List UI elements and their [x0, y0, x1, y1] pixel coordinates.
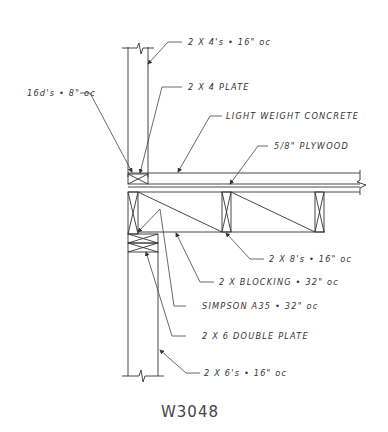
- wall-floor-section-detail: 2 X 4's • 16" oc 16d's • 8" oc 2 X 4 PLA…: [0, 0, 388, 432]
- floor-joists: [128, 192, 325, 234]
- label-nails: 16d's • 8" oc: [27, 88, 96, 98]
- label-upper-studs: 2 X 4's • 16" oc: [188, 37, 271, 47]
- lower-wall: [122, 234, 164, 382]
- label-plywood: 5/8" PLYWOOD: [274, 141, 349, 151]
- floor-deck: [128, 170, 366, 195]
- label-simpson: SIMPSON A35 • 32" oc: [202, 301, 318, 311]
- label-lower-studs: 2 X 6's • 16" oc: [204, 368, 287, 378]
- drawing-title: W3048: [161, 403, 219, 421]
- label-blocking: 2 X BLOCKING • 32" oc: [219, 277, 339, 287]
- label-2x4-plate: 2 X 4 PLATE: [188, 82, 250, 92]
- label-joists: 2 X 8's • 16" oc: [269, 254, 352, 264]
- label-concrete: LIGHT WEIGHT CONCRETE: [226, 111, 359, 121]
- label-double-plate: 2 X 6 DOUBLE PLATE: [202, 331, 309, 341]
